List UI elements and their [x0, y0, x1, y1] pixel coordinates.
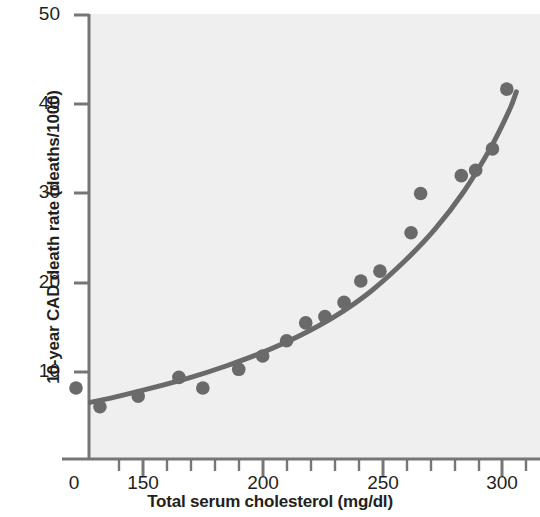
chart-figure: 50 40 30 20 10 0 150 200 250 300 Total s…: [0, 0, 540, 517]
data-point: [414, 187, 428, 201]
data-point: [256, 349, 270, 363]
y-axis-title: 10-year CAD death rate (deaths/1000): [44, 0, 64, 477]
data-point: [172, 371, 186, 385]
data-point: [232, 363, 246, 377]
data-point: [93, 400, 107, 414]
x-tick-label-300: 300: [472, 472, 532, 494]
x-axis-title: Total serum cholesterol (mg/dl): [0, 492, 540, 512]
x-tick-label-250: 250: [353, 472, 413, 494]
data-point: [280, 334, 294, 348]
data-point: [69, 381, 83, 395]
x-axis-ticks: [119, 459, 526, 476]
y-axis-ticks: [74, 15, 89, 372]
data-point: [337, 296, 351, 310]
x-tick-label-200: 200: [233, 472, 293, 494]
data-point: [500, 82, 514, 96]
data-point: [373, 264, 387, 278]
data-point: [131, 389, 145, 403]
data-point: [455, 169, 469, 183]
data-point: [196, 381, 210, 395]
x-tick-label-150: 150: [113, 472, 173, 494]
data-point: [404, 226, 418, 240]
data-point: [354, 274, 368, 288]
plot-background: [88, 14, 540, 458]
data-point: [486, 142, 500, 156]
data-point: [469, 163, 483, 177]
data-point: [299, 316, 313, 330]
scatter-plot-canvas: [0, 0, 540, 517]
data-point: [318, 310, 332, 324]
